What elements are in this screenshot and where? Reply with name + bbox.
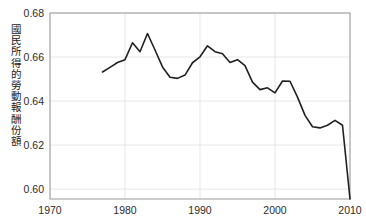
y-tick-label: 0.68	[18, 7, 44, 19]
line-chart-plot	[0, 0, 366, 224]
y-axis-title: 國民所得的勞動報酬份額	[8, 24, 24, 147]
y-tick-label: 0.66	[18, 51, 44, 63]
x-tick-label: 1970	[30, 204, 70, 216]
y-tick-label: 0.62	[18, 139, 44, 151]
chart-figure: 國民所得的勞動報酬份額 0.680.660.640.620.60 1970198…	[0, 0, 366, 224]
x-tick-label: 2010	[330, 204, 366, 216]
y-tick-label: 0.60	[18, 183, 44, 195]
y-tick-label: 0.64	[18, 95, 44, 107]
x-tick-label: 1990	[180, 204, 220, 216]
x-tick-label: 1980	[105, 204, 145, 216]
x-tick-label: 2000	[255, 204, 295, 216]
